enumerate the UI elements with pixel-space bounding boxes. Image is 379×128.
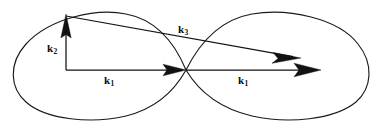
label-k2: k2 [47,43,57,54]
lemniscate-vector-diagram [0,0,379,128]
label-k2-subscript: 2 [53,47,57,56]
figure-container: k2 k1 k1 k3 [0,0,379,128]
label-k1-left: k1 [104,75,114,86]
label-k1-right-subscript: 1 [244,79,248,88]
lemniscate-left-lobe [13,12,186,120]
label-k3: k3 [178,24,188,35]
label-k1-left-subscript: 1 [110,79,114,88]
label-k1-right: k1 [238,75,248,86]
label-k3-subscript: 3 [184,28,188,37]
k3-arrowhead [272,53,301,64]
lemniscate-right-lobe [186,12,369,120]
